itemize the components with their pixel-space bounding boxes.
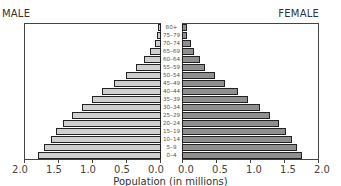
tick-mark bbox=[92, 160, 93, 163]
female-bar-35-39 bbox=[182, 96, 248, 103]
male-bar-30-34 bbox=[82, 104, 161, 111]
age-label: 45–49 bbox=[161, 80, 182, 87]
tick-mark bbox=[58, 160, 59, 163]
male-bar-60-64 bbox=[144, 56, 161, 63]
x-tick-label: 1.5 bbox=[42, 164, 66, 175]
x-tick-label: 1.0 bbox=[242, 164, 266, 175]
x-tick-label: 1.5 bbox=[276, 164, 300, 175]
age-label: 0–4 bbox=[161, 152, 182, 159]
x-tick-label: 2.0 bbox=[310, 164, 334, 175]
age-label: 15–19 bbox=[161, 128, 182, 135]
female-bar-70-74 bbox=[182, 40, 191, 47]
female-bar-75-79 bbox=[182, 32, 187, 39]
age-label: 75–79 bbox=[161, 32, 182, 39]
female-bar-80+ bbox=[182, 24, 187, 31]
x-tick-label: 0.0 bbox=[144, 164, 168, 175]
female-bar-0-4 bbox=[182, 152, 302, 159]
female-bar-45-49 bbox=[182, 80, 225, 87]
tick-mark bbox=[250, 160, 251, 163]
age-label: 30–34 bbox=[161, 104, 182, 111]
male-bar-35-39 bbox=[92, 96, 161, 103]
age-label: 10–14 bbox=[161, 136, 182, 143]
male-bar-50-54 bbox=[126, 72, 161, 79]
female-bar-15-19 bbox=[182, 128, 286, 135]
male-bar-10-14 bbox=[51, 136, 161, 143]
tick-mark bbox=[126, 160, 127, 163]
tick-mark bbox=[318, 160, 319, 163]
tick-mark bbox=[284, 160, 285, 163]
x-tick-label: 0.5 bbox=[110, 164, 134, 175]
age-label: 55–59 bbox=[161, 64, 182, 71]
age-label: 65–69 bbox=[161, 48, 182, 55]
male-bar-15-19 bbox=[56, 128, 161, 135]
age-label: 35–39 bbox=[161, 96, 182, 103]
tick-mark bbox=[182, 160, 183, 163]
age-label: 80+ bbox=[161, 24, 182, 31]
male-bar-45-49 bbox=[114, 80, 161, 87]
male-bar-5-9 bbox=[44, 144, 161, 151]
x-axis-label: Population (in millions) bbox=[0, 176, 341, 186]
female-bar-55-59 bbox=[182, 64, 205, 71]
male-bar-20-24 bbox=[63, 120, 161, 127]
age-label: 5–9 bbox=[161, 144, 182, 151]
age-label: 40–44 bbox=[161, 88, 182, 95]
female-bar-5-9 bbox=[182, 144, 297, 151]
male-title: MALE bbox=[2, 8, 30, 19]
female-bar-50-54 bbox=[182, 72, 215, 79]
male-bar-0-4 bbox=[38, 152, 161, 159]
age-label: 20–24 bbox=[161, 120, 182, 127]
male-bar-55-59 bbox=[136, 64, 161, 71]
tick-mark bbox=[216, 160, 217, 163]
tick-mark bbox=[24, 160, 25, 163]
female-bar-60-64 bbox=[182, 56, 200, 63]
female-bar-65-69 bbox=[182, 48, 194, 55]
x-tick-label: 0.0 bbox=[174, 164, 198, 175]
female-bar-20-24 bbox=[182, 120, 279, 127]
female-title: FEMALE bbox=[278, 8, 319, 19]
female-bar-30-34 bbox=[182, 104, 260, 111]
x-tick-label: 2.0 bbox=[8, 164, 32, 175]
male-bar-25-29 bbox=[72, 112, 161, 119]
x-tick-label: 1.0 bbox=[76, 164, 100, 175]
female-bar-25-29 bbox=[182, 112, 270, 119]
male-bar-40-44 bbox=[102, 88, 161, 95]
male-bar-65-69 bbox=[150, 48, 161, 55]
x-tick-label: 0.5 bbox=[208, 164, 232, 175]
age-label: 60–64 bbox=[161, 56, 182, 63]
female-bar-10-14 bbox=[182, 136, 292, 143]
age-label: 25–29 bbox=[161, 112, 182, 119]
age-label: 70–74 bbox=[161, 40, 182, 47]
female-bar-40-44 bbox=[182, 88, 238, 95]
tick-mark bbox=[160, 160, 161, 163]
age-label: 50–54 bbox=[161, 72, 182, 79]
